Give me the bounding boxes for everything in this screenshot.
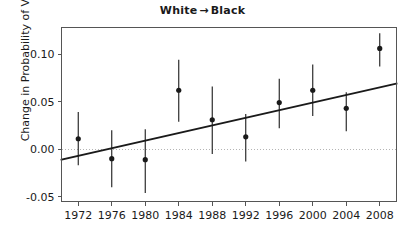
x-axis-ticks: 1972197619801984198819921996200020042008 — [64, 202, 394, 222]
y-axis-ticks: 0.100.050.00-0.05 — [26, 48, 61, 204]
x-tick-label: 2008 — [366, 209, 394, 222]
x-tick-label: 1984 — [165, 209, 193, 222]
x-tick-label: 2000 — [299, 209, 327, 222]
data-point — [210, 117, 215, 122]
plot-area: 0.100.050.00-0.05 1972197619801984198819… — [0, 0, 405, 237]
y-tick-label: -0.05 — [26, 191, 54, 204]
data-point — [377, 46, 382, 51]
y-tick-label: 0.10 — [30, 48, 55, 61]
data-points — [76, 46, 383, 162]
x-tick-label: 1976 — [98, 209, 126, 222]
data-point — [277, 100, 282, 105]
y-tick-label: 0.05 — [30, 96, 55, 109]
chart-container: White→Black Change in Probability of Vot… — [0, 0, 405, 237]
x-tick-label: 1996 — [265, 209, 293, 222]
error-bars — [78, 33, 380, 193]
y-tick-label: 0.00 — [30, 143, 55, 156]
x-tick-label: 2004 — [332, 209, 360, 222]
x-tick-label: 1992 — [232, 209, 260, 222]
data-point — [176, 88, 181, 93]
data-point — [243, 134, 248, 139]
data-point — [109, 156, 114, 161]
data-point — [344, 106, 349, 111]
x-tick-label: 1972 — [64, 209, 92, 222]
data-point — [143, 157, 148, 162]
x-tick-label: 1988 — [198, 209, 226, 222]
x-tick-label: 1980 — [131, 209, 159, 222]
data-point — [76, 136, 81, 141]
data-point — [310, 88, 315, 93]
